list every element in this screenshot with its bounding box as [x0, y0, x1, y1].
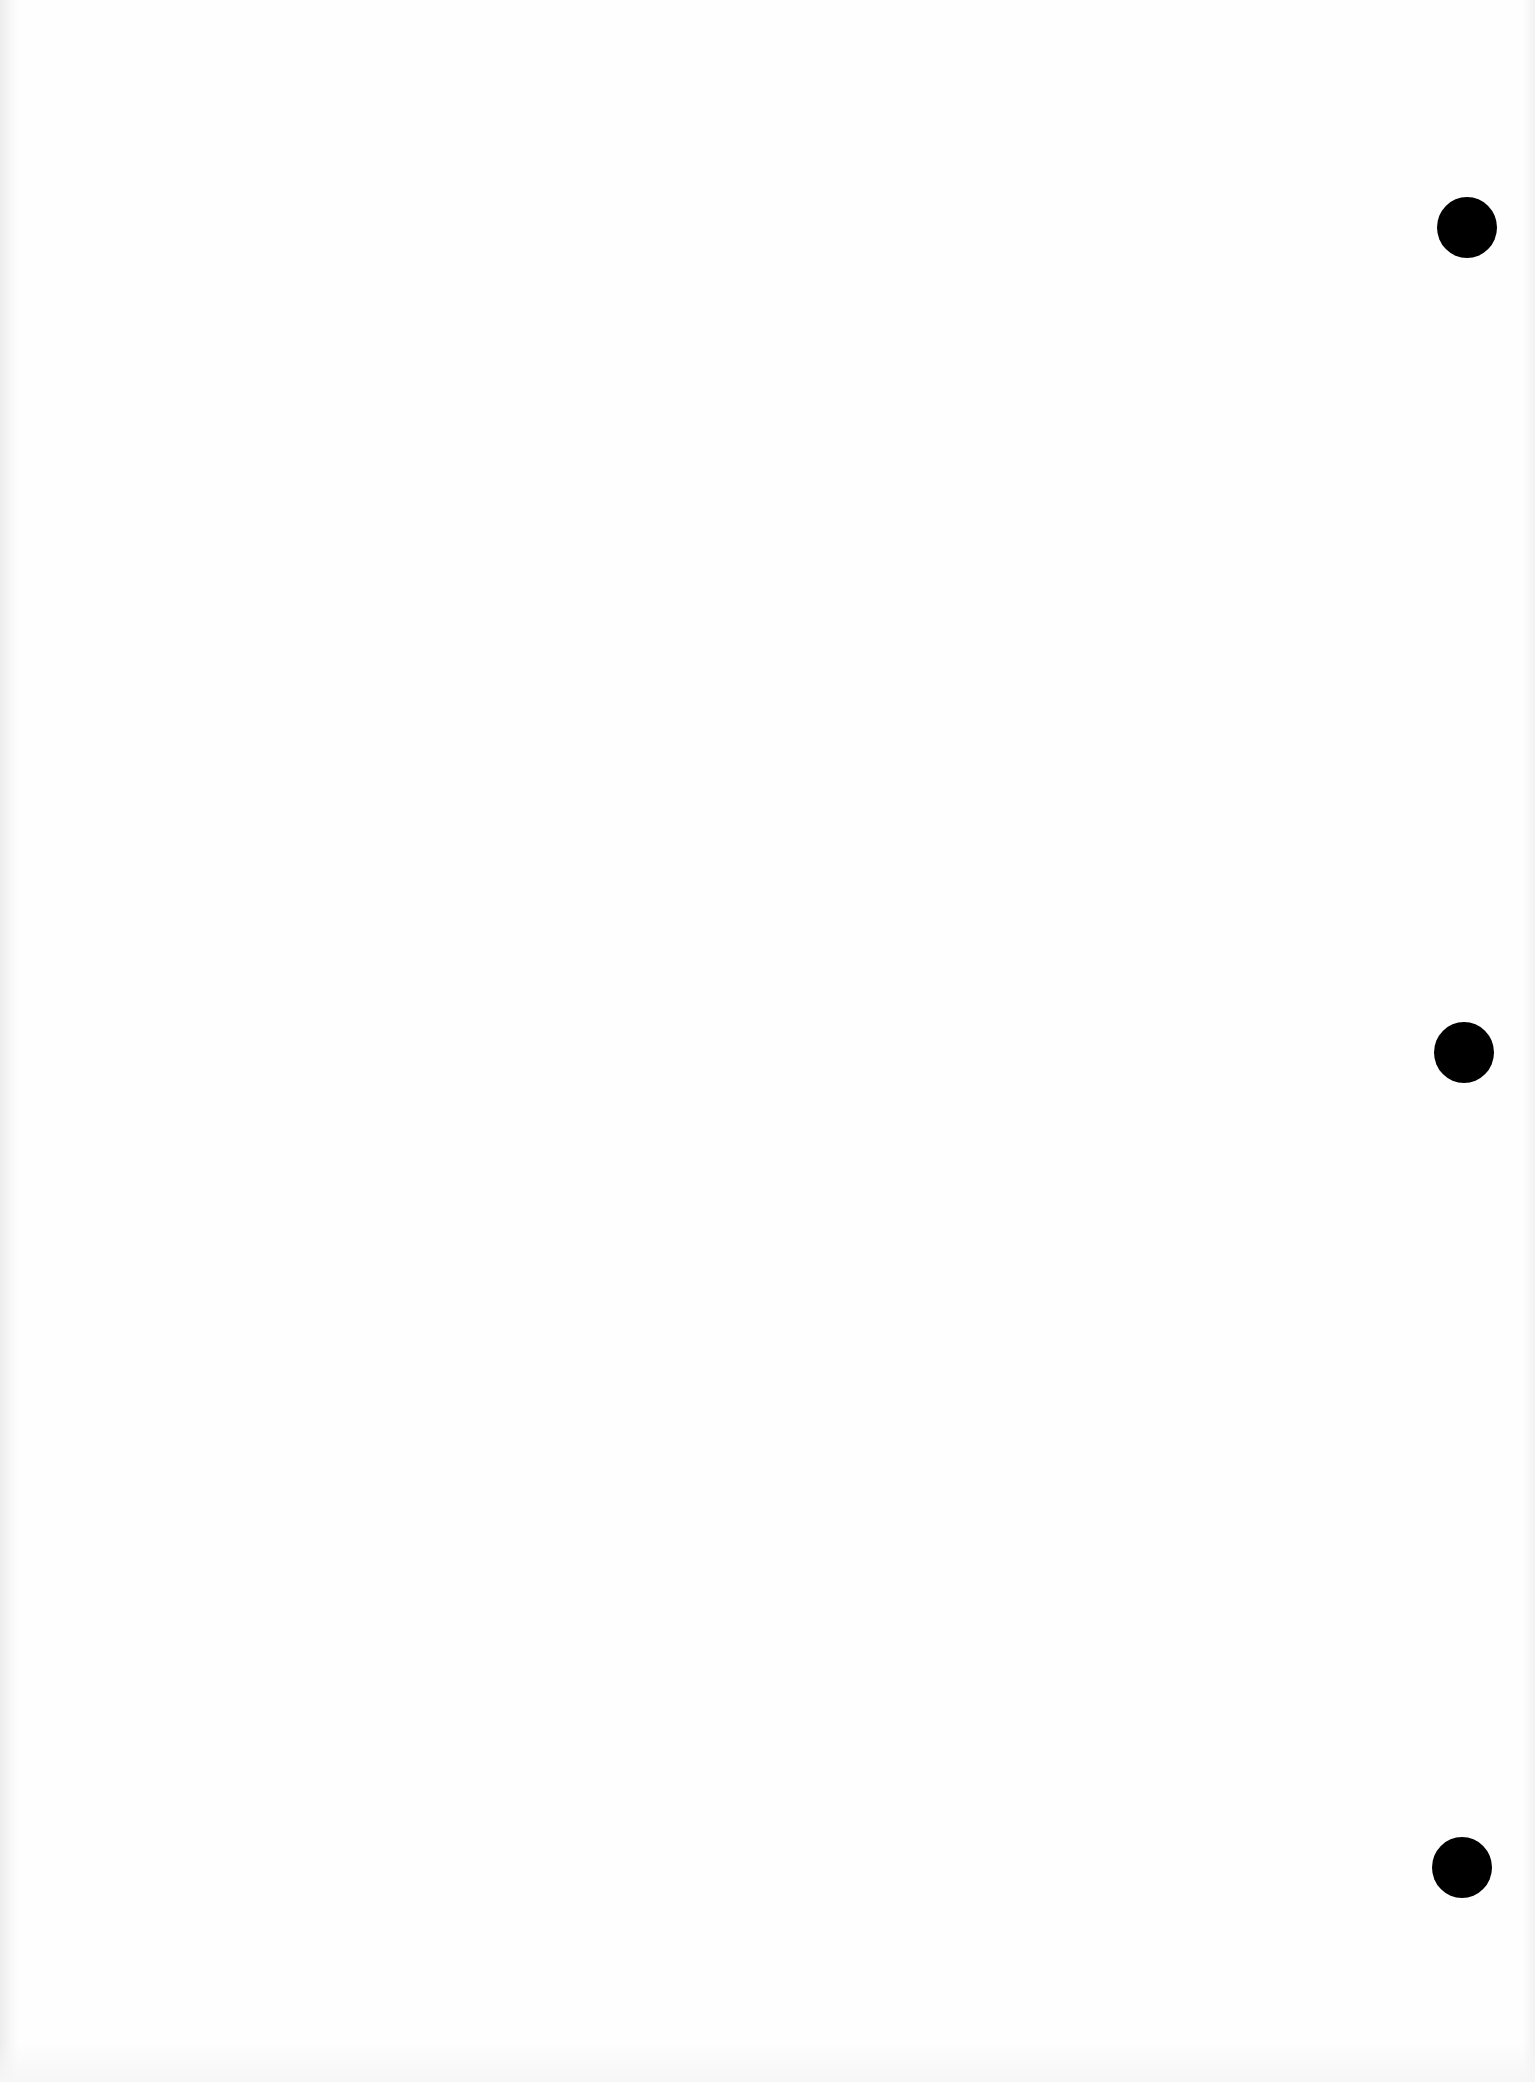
punch-hole-middle: [1434, 1022, 1494, 1083]
page-edge-shadow-left: [0, 0, 18, 2082]
punch-hole-bottom: [1432, 1837, 1492, 1898]
page-edge-shadow-bottom: [0, 2042, 1535, 2082]
punch-hole-top: [1437, 197, 1497, 258]
blank-page: [0, 0, 1535, 2082]
page-edge-shadow-right: [1523, 0, 1535, 2082]
